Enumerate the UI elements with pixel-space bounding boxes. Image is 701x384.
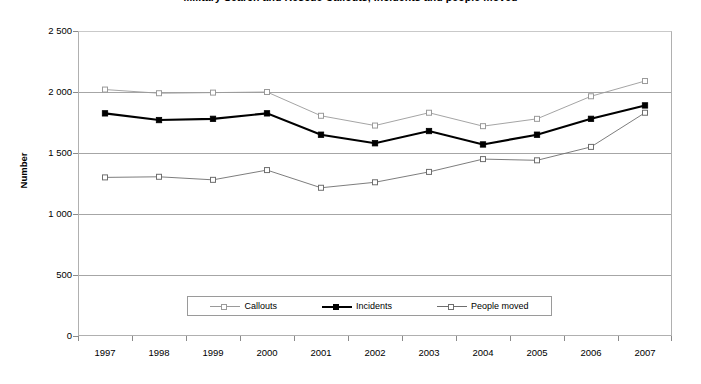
- legend-item-callouts: Callouts: [210, 302, 277, 311]
- x-tick-label: 2003: [402, 348, 456, 358]
- y-tick-label: 2 000: [12, 87, 72, 97]
- x-tick-mark: [78, 336, 79, 341]
- x-tick-mark: [671, 336, 672, 341]
- x-tick-mark: [348, 336, 349, 341]
- x-tick-label: 2006: [564, 348, 618, 358]
- line-chart: Military Search and Rescue Callouts, Inc…: [0, 0, 701, 384]
- x-tick-label: 2002: [348, 348, 402, 358]
- x-tick-label: 2005: [510, 348, 564, 358]
- legend-swatch-icon: [210, 302, 240, 311]
- x-tick-mark: [240, 336, 241, 341]
- x-tick-mark: [186, 336, 187, 341]
- x-tick-mark: [456, 336, 457, 341]
- x-tick-label: 2007: [618, 348, 672, 358]
- gridline: [79, 275, 671, 276]
- x-tick-mark: [132, 336, 133, 341]
- x-tick-label: 1998: [132, 348, 186, 358]
- legend-label: Callouts: [244, 302, 277, 311]
- y-tick-label: 1 500: [12, 148, 72, 158]
- legend-swatch-icon: [437, 302, 467, 311]
- legend-swatch-icon: [322, 302, 352, 311]
- x-tick-mark: [294, 336, 295, 341]
- x-tick-label: 2000: [240, 348, 294, 358]
- x-tick-label: 2001: [294, 348, 348, 358]
- x-tick-label: 2004: [456, 348, 510, 358]
- x-tick-label: 1997: [78, 348, 132, 358]
- y-tick-label: 0: [12, 331, 72, 341]
- x-tick-mark: [402, 336, 403, 341]
- x-tick-label: 1999: [186, 348, 240, 358]
- gridline: [79, 153, 671, 154]
- x-tick-mark: [618, 336, 619, 341]
- chart-title: Military Search and Rescue Callouts, Inc…: [0, 0, 701, 3]
- plot-area: [78, 31, 672, 336]
- y-tick-label: 1 000: [12, 209, 72, 219]
- legend-label: Incidents: [356, 302, 392, 311]
- legend-item-incidents: Incidents: [322, 302, 392, 311]
- gridline: [79, 92, 671, 93]
- y-tick-label: 2 500: [12, 26, 72, 36]
- gridline: [79, 214, 671, 215]
- legend-label: People moved: [471, 302, 529, 311]
- x-tick-mark: [510, 336, 511, 341]
- x-tick-mark: [564, 336, 565, 341]
- y-tick-label: 500: [12, 270, 72, 280]
- chart-legend: CalloutsIncidentsPeople moved: [187, 296, 552, 316]
- legend-item-people-moved: People moved: [437, 302, 529, 311]
